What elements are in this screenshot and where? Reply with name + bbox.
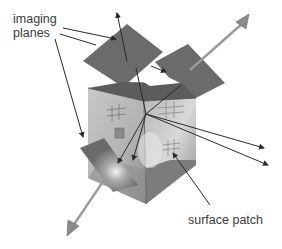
cube: [88, 69, 196, 204]
leader-line-2: [60, 34, 96, 45]
normal-arrow-down-left: [67, 180, 104, 236]
normal-arrow-up-right: [190, 14, 249, 70]
imaging-planes-label: imaging planes: [13, 12, 57, 40]
imaging-planes-label-line1: imaging: [13, 12, 57, 26]
small-object: [115, 128, 124, 138]
diagram-canvas: imaging planes surface patch: [0, 0, 282, 249]
surface-patch-label: surface patch: [188, 213, 263, 227]
imaging-planes-label-line2: planes: [13, 26, 57, 40]
leader-line-3: [55, 39, 83, 137]
